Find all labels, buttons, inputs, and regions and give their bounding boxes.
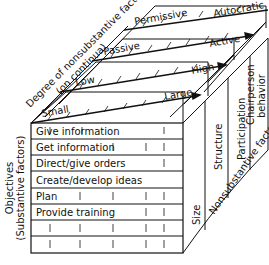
objective-row-2: Get information bbox=[36, 142, 115, 153]
chairperson-low-label: Permissive bbox=[133, 7, 188, 27]
objective-row-3: Direct/give orders bbox=[36, 158, 126, 169]
vertical-axis-label: Objectives bbox=[4, 162, 15, 215]
objective-row-6: Provide training bbox=[36, 207, 115, 218]
structure-high-label: High bbox=[190, 61, 215, 76]
layer-name-size: Size bbox=[191, 204, 202, 225]
objective-row-1: Give information bbox=[36, 126, 120, 137]
vertical-axis-sublabel: (Substantive factors) bbox=[15, 135, 26, 240]
participation-high-label: Active bbox=[208, 33, 240, 49]
size-low-label: Small bbox=[40, 103, 69, 119]
objective-row-4: Create/develop ideas bbox=[36, 175, 142, 186]
objectives-cube-diagram: Give information Get information Direct/… bbox=[0, 0, 269, 265]
layer-name-chairperson-line1: Chairperson bbox=[245, 64, 256, 125]
layer-name-structure: Structure bbox=[213, 123, 224, 170]
chairperson-high-label: Autocratic bbox=[212, 0, 264, 19]
layer-name-chairperson-line2: behavior bbox=[256, 73, 267, 118]
objective-row-5: Plan bbox=[36, 191, 57, 202]
